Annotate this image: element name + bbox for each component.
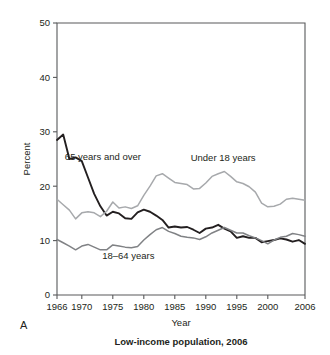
y-tick-label: 40 — [39, 72, 50, 83]
y-tick-label: 50 — [39, 17, 50, 28]
x-tick-label: 1966 — [46, 301, 67, 312]
series-line — [57, 228, 305, 250]
y-axis-title: Percent — [21, 142, 32, 175]
y-axis-tick-labels: 01020304050 — [39, 17, 50, 300]
x-tick-label: 1995 — [226, 301, 247, 312]
y-tick-label: 30 — [39, 126, 50, 137]
x-axis-title: Year — [171, 317, 190, 328]
x-tick-label: 1985 — [164, 301, 185, 312]
y-tick-label: 20 — [39, 181, 50, 192]
series-label: Under 18 years — [191, 152, 256, 163]
series-label: 65 years and over — [65, 151, 141, 162]
x-axis-ticks — [57, 295, 305, 299]
figure-container: 196619701975198019851990199520002006 010… — [0, 0, 330, 355]
x-tick-label: 1970 — [71, 301, 92, 312]
x-tick-label: 1980 — [133, 301, 154, 312]
series-label: 18–64 years — [102, 250, 155, 261]
y-tick-label: 10 — [39, 235, 50, 246]
x-tick-label: 1975 — [102, 301, 123, 312]
x-axis-tick-labels: 196619701975198019851990199520002006 — [46, 301, 315, 312]
panel-label: A — [20, 319, 28, 331]
x-tick-label: 2006 — [294, 301, 315, 312]
x-tick-label: 2000 — [257, 301, 278, 312]
series-annotations: 65 years and overUnder 18 years18–64 yea… — [65, 151, 256, 260]
y-axis-ticks — [53, 23, 57, 295]
figure-caption: Low-income population, 2006 — [114, 336, 247, 347]
x-tick-label: 1990 — [195, 301, 216, 312]
y-tick-label: 0 — [45, 289, 50, 300]
line-chart: 196619701975198019851990199520002006 010… — [0, 0, 330, 355]
